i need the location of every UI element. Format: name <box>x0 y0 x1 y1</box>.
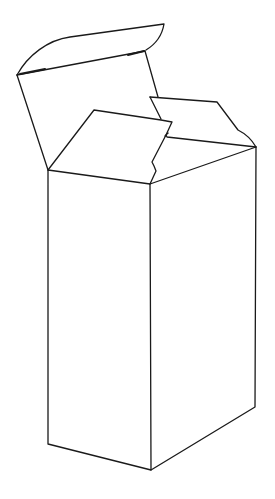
front-left-face <box>48 170 151 470</box>
open-box-diagram <box>0 0 275 499</box>
front-right-face <box>150 147 256 470</box>
top-back-flap <box>17 24 164 75</box>
